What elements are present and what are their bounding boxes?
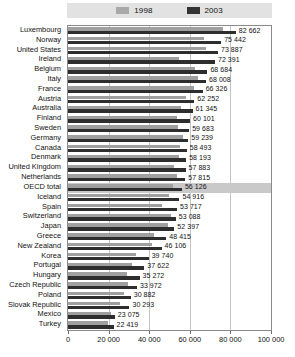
bar-2003: [68, 149, 187, 152]
bar-2003: [68, 296, 131, 299]
category-label-germany: Germany: [31, 133, 61, 143]
category-label-new-zealand: New Zealand: [17, 241, 61, 251]
bar-value-label: 73 887: [221, 46, 243, 54]
bar-row: 52 397: [68, 222, 271, 232]
bar-value-label: 23 075: [118, 311, 140, 319]
axis-tick: [271, 331, 272, 334]
axis-tick-label: 100 000: [258, 335, 285, 344]
category-label-slovak-republic: Slovak Republic: [8, 300, 61, 310]
bar-value-label: 22 419: [117, 321, 139, 329]
category-label-turkey: Turkey: [39, 319, 61, 329]
category-label-norway: Norway: [36, 35, 61, 45]
value-axis: 020 00040 00060 00080 000100 000: [67, 331, 272, 353]
bar-row: 59 683: [68, 124, 271, 134]
bar-2003: [68, 306, 129, 309]
bar-row: 30 882: [68, 291, 271, 301]
axis-tick: [109, 331, 110, 334]
bar-value-label: 53 717: [180, 203, 202, 211]
axis-tick-label: 40 000: [138, 335, 161, 344]
category-label-austria: Austria: [38, 94, 61, 104]
bar-value-label: 52 397: [177, 223, 199, 231]
bar-row: 23 075: [68, 310, 271, 320]
bar-2003: [68, 129, 189, 132]
bar-row: 54 916: [68, 193, 271, 203]
category-label-iceland: Iceland: [37, 192, 61, 202]
bar-2003: [68, 257, 149, 260]
bar-row: 37 622: [68, 261, 271, 271]
bar-row: 82 662: [68, 26, 271, 36]
bar-value-label: 57 883: [189, 164, 211, 172]
category-label-united-kingdom: United Kingdom: [8, 162, 61, 172]
legend-swatch-2003: [187, 7, 200, 14]
axis-tick: [68, 331, 69, 334]
bar-row: 57 883: [68, 163, 271, 173]
bar-value-label: 46 106: [165, 242, 187, 250]
legend-label-2003: 2003: [205, 7, 223, 15]
legend-entry-2003: 2003: [187, 7, 223, 15]
bar-value-label: 48 415: [169, 233, 191, 241]
bar-2003: [68, 227, 174, 230]
bar-row: 48 415: [68, 232, 271, 242]
bar-value-label: 33 972: [140, 282, 162, 290]
bar-row: 53 717: [68, 203, 271, 213]
category-label-canada: Canada: [35, 143, 61, 153]
bar-2003: [68, 158, 186, 161]
bar-value-label: 66 326: [206, 85, 228, 93]
category-label-belgium: Belgium: [34, 64, 61, 74]
bar-row: 35 272: [68, 271, 271, 281]
bar-value-label: 56 126: [185, 183, 207, 191]
category-axis-labels: LuxembourgNorwayUnited StatesIrelandBelg…: [0, 25, 64, 331]
legend-swatch-1998: [116, 7, 129, 14]
axis-tick: [230, 331, 231, 334]
bar-value-label: 60 101: [193, 115, 215, 123]
category-label-korea: Korea: [41, 251, 61, 261]
bar-value-label: 68 684: [210, 66, 232, 74]
category-label-finland: Finland: [37, 113, 61, 123]
category-label-spain: Spain: [42, 202, 61, 212]
bar-chart: 1998 2003 LuxembourgNorwayUnited StatesI…: [0, 0, 295, 357]
bar-rows: 82 66275 44273 88772 39168 68468 00866 3…: [68, 26, 271, 330]
bar-row: 33 972: [68, 281, 271, 291]
category-label-poland: Poland: [38, 290, 61, 300]
bar-2003: [68, 276, 140, 279]
bar-row: 75 442: [68, 36, 271, 46]
axis-tick-label: 80 000: [219, 335, 242, 344]
bar-row: 30 293: [68, 301, 271, 311]
bar-2003: [68, 237, 166, 240]
axis-tick-label: 60 000: [178, 335, 201, 344]
category-label-italy: Italy: [47, 74, 61, 84]
bar-row: 73 887: [68, 46, 271, 56]
plot-area: 82 66275 44273 88772 39168 68468 00866 3…: [67, 25, 272, 331]
bar-2003: [68, 286, 137, 289]
category-label-oecd-total: OECD total: [24, 182, 61, 192]
bar-2003: [68, 31, 236, 34]
bar-2003: [68, 119, 190, 122]
bar-value-label: 59 683: [192, 125, 214, 133]
bar-row: 59 239: [68, 134, 271, 144]
bar-row: 62 252: [68, 95, 271, 105]
bar-row: 72 391: [68, 55, 271, 65]
legend-label-1998: 1998: [134, 7, 152, 15]
category-label-france: France: [38, 84, 61, 94]
bar-2003: [68, 217, 176, 220]
bar-value-label: 68 008: [209, 76, 231, 84]
bar-value-label: 58 193: [189, 154, 211, 162]
bar-value-label: 72 391: [218, 56, 240, 64]
bar-row: 60 101: [68, 114, 271, 124]
bar-2003: [68, 198, 179, 201]
bar-2003: [68, 315, 115, 318]
bar-row: 46 106: [68, 242, 271, 252]
axis-tick: [190, 331, 191, 334]
category-label-greece: Greece: [37, 231, 61, 241]
category-label-czech-republic: Czech Republic: [9, 280, 61, 290]
category-label-united-states: United States: [17, 45, 61, 55]
category-label-portugal: Portugal: [33, 260, 61, 270]
category-label-switzerland: Switzerland: [23, 211, 61, 221]
chart-legend: 1998 2003: [67, 3, 272, 18]
bar-2003: [68, 168, 186, 171]
category-label-sweden: Sweden: [34, 123, 61, 133]
axis-tick-label: 20 000: [97, 335, 120, 344]
category-label-ireland: Ireland: [38, 54, 61, 64]
bar-value-label: 39 740: [152, 252, 174, 260]
bar-2003: [68, 41, 221, 44]
